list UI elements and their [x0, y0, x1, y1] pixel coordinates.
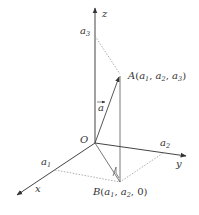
point-B-label: B(a1, a2, 0): [92, 186, 148, 199]
origin-label: O: [80, 134, 88, 145]
vector-3d-diagram: z y x O a3 a1 a2 a A(a1, a2, a3) B(a1, a…: [0, 0, 199, 215]
point-A-label: A(a1, a2, a3): [127, 70, 186, 83]
dotted-a1-to-B: [55, 170, 120, 182]
x-axis-label: x: [35, 183, 41, 194]
x-axis: [17, 143, 95, 195]
line-O-to-B: [95, 143, 120, 182]
z-axis-label: z: [101, 8, 108, 19]
y-axis-label: y: [175, 158, 182, 169]
a3-axis-mark: a3: [80, 25, 90, 38]
y-axis: [95, 143, 186, 156]
vector-a-label: a: [98, 102, 104, 113]
a2-axis-mark: a2: [160, 137, 170, 150]
dotted-a2-to-B: [120, 153, 163, 182]
a1-axis-mark: a1: [41, 156, 51, 169]
dotted-a3-to-A: [95, 36, 120, 74]
